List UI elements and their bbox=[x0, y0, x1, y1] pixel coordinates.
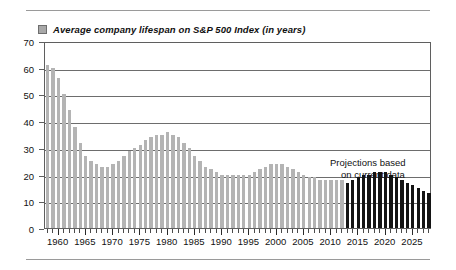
bar bbox=[297, 172, 300, 228]
bar bbox=[144, 140, 147, 228]
x-axis-tick bbox=[134, 229, 135, 233]
bar bbox=[264, 167, 267, 228]
bar bbox=[149, 137, 152, 228]
x-axis-tick-label: 2005 bbox=[292, 236, 313, 247]
x-axis-tick-label: 2015 bbox=[347, 236, 368, 247]
x-axis-major-tick bbox=[330, 229, 331, 235]
bar bbox=[308, 177, 311, 228]
bar bbox=[209, 169, 212, 228]
bar bbox=[155, 135, 158, 229]
bar bbox=[46, 65, 49, 228]
x-axis-tick bbox=[292, 229, 293, 233]
x-axis-tick-label: 1990 bbox=[211, 236, 232, 247]
x-axis-tick-label: 2000 bbox=[265, 236, 286, 247]
x-axis-tick bbox=[188, 229, 189, 233]
x-axis-tick-label: 1960 bbox=[47, 236, 68, 247]
bar bbox=[89, 161, 92, 228]
bar bbox=[62, 94, 65, 228]
bar bbox=[117, 161, 120, 228]
x-axis-tick bbox=[374, 229, 375, 233]
x-axis-tick bbox=[150, 229, 151, 233]
x-axis-major-tick bbox=[221, 229, 222, 235]
x-axis-major-tick bbox=[139, 229, 140, 235]
x-axis-tick bbox=[161, 229, 162, 233]
bar bbox=[340, 180, 343, 228]
bar bbox=[242, 175, 245, 228]
top-divider-rule bbox=[26, 10, 430, 11]
bar bbox=[417, 188, 420, 228]
bar bbox=[329, 180, 332, 228]
x-axis-tick bbox=[210, 229, 211, 233]
x-axis-major-tick bbox=[248, 229, 249, 235]
bar bbox=[51, 68, 54, 228]
bar bbox=[188, 148, 191, 228]
x-axis-tick bbox=[96, 229, 97, 233]
x-axis-tick bbox=[254, 229, 255, 233]
x-axis-major-tick bbox=[412, 229, 413, 235]
x-axis-major-tick bbox=[276, 229, 277, 235]
x-axis-major-tick bbox=[194, 229, 195, 235]
y-axis-tick-label: 30 bbox=[23, 143, 34, 154]
x-axis-tick bbox=[270, 229, 271, 233]
x-axis-major-tick bbox=[112, 229, 113, 235]
bar bbox=[427, 193, 430, 228]
bar bbox=[111, 164, 114, 228]
y-axis-tick-label: 60 bbox=[23, 63, 34, 74]
legend-label: Average company lifespan on S&P 500 Inde… bbox=[53, 24, 305, 35]
x-axis-tick bbox=[341, 229, 342, 233]
x-axis-tick bbox=[79, 229, 80, 233]
y-axis-tick-label: 10 bbox=[23, 197, 34, 208]
chart-figure: Average company lifespan on S&P 500 Inde… bbox=[0, 0, 456, 270]
x-axis-tick bbox=[406, 229, 407, 233]
bar bbox=[411, 185, 414, 228]
x-axis-tick bbox=[259, 229, 260, 233]
x-axis-tick bbox=[336, 229, 337, 233]
x-axis-tick bbox=[123, 229, 124, 233]
x-axis-tick bbox=[319, 229, 320, 233]
x-axis-ticks bbox=[44, 229, 431, 236]
bar bbox=[422, 191, 425, 228]
x-axis-tick-label: 1965 bbox=[74, 236, 95, 247]
bar bbox=[362, 175, 365, 228]
x-axis-tick bbox=[205, 229, 206, 233]
x-axis-tick bbox=[199, 229, 200, 233]
bar bbox=[237, 175, 240, 228]
x-axis-tick bbox=[69, 229, 70, 233]
x-axis-tick bbox=[314, 229, 315, 233]
bar bbox=[220, 175, 223, 228]
bar bbox=[133, 148, 136, 228]
y-axis-tick-label: 50 bbox=[23, 90, 34, 101]
bar bbox=[106, 167, 109, 228]
x-axis-tick bbox=[281, 229, 282, 233]
bar bbox=[198, 161, 201, 228]
projection-annotation-line-2: on current data bbox=[341, 169, 405, 181]
bar bbox=[346, 183, 349, 228]
bar bbox=[204, 167, 207, 228]
bar bbox=[395, 177, 398, 228]
x-axis-tick bbox=[216, 229, 217, 233]
x-axis-tick bbox=[423, 229, 424, 233]
x-axis-tick-label: 1995 bbox=[238, 236, 259, 247]
x-axis-tick bbox=[325, 229, 326, 233]
bar bbox=[335, 180, 338, 228]
bar bbox=[280, 164, 283, 228]
bar bbox=[253, 172, 256, 228]
x-axis-tick bbox=[287, 229, 288, 233]
x-axis-major-tick bbox=[85, 229, 86, 235]
x-axis-tick bbox=[363, 229, 364, 233]
bar bbox=[95, 164, 98, 228]
x-axis-tick bbox=[297, 229, 298, 233]
x-axis-tick bbox=[118, 229, 119, 233]
bar-series-container bbox=[45, 43, 430, 228]
x-axis-tick bbox=[396, 229, 397, 233]
bar bbox=[182, 143, 185, 228]
x-axis-tick-label: 1975 bbox=[129, 236, 150, 247]
bar bbox=[57, 78, 60, 228]
x-axis-tick bbox=[417, 229, 418, 233]
x-axis-tick-label: 2025 bbox=[401, 236, 422, 247]
x-axis-tick-label: 2020 bbox=[374, 236, 395, 247]
x-axis-tick bbox=[74, 229, 75, 233]
bar bbox=[160, 135, 163, 229]
x-axis-tick bbox=[52, 229, 53, 233]
bar bbox=[84, 156, 87, 228]
